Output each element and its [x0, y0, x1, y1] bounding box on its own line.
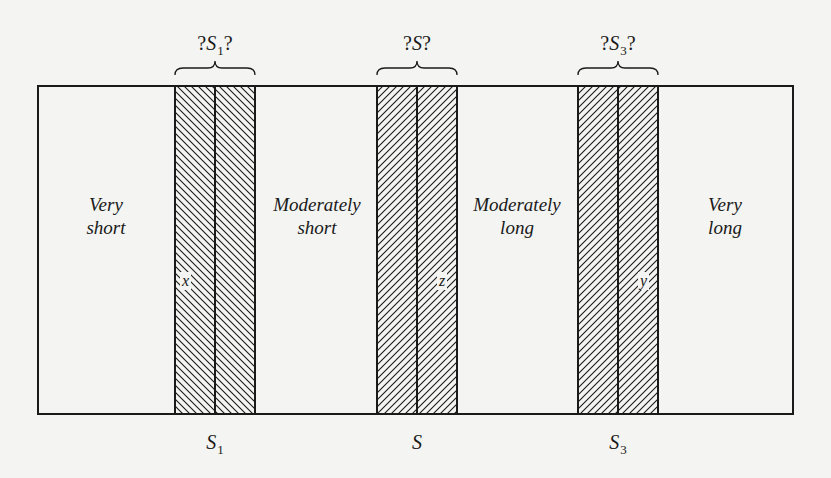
- band-s: [377, 86, 457, 414]
- question-mark: ?: [224, 32, 233, 54]
- region-moderately-long: Moderately long: [458, 193, 576, 239]
- brace-s1: [175, 61, 255, 75]
- region-label-line2: short: [258, 216, 376, 239]
- subscript: 1: [217, 442, 224, 457]
- region-label-line1: Very: [66, 193, 146, 216]
- axis-label-s: S: [387, 431, 447, 453]
- point-label-x: x: [180, 272, 191, 290]
- subscript: 3: [620, 442, 627, 457]
- region-moderately-short: Moderately short: [258, 193, 376, 239]
- diagram-graphics: [0, 0, 831, 478]
- region-very-long: Very long: [685, 193, 765, 239]
- question-mark: ?: [403, 32, 412, 54]
- symbol: S: [412, 32, 422, 54]
- bracket-label-s3: ?S3?: [568, 32, 668, 62]
- region-very-short: Very short: [66, 193, 146, 239]
- band-s1: [175, 86, 255, 414]
- bracket-label-s1: ?S1?: [165, 32, 265, 62]
- symbol: S: [206, 32, 216, 54]
- axis-label-s3: S3: [588, 431, 648, 461]
- brace-s: [377, 61, 457, 75]
- question-mark: ?: [600, 32, 609, 54]
- symbol: S: [609, 32, 619, 54]
- question-mark: ?: [422, 32, 431, 54]
- region-label-line2: short: [66, 216, 146, 239]
- symbol: S: [609, 431, 619, 453]
- region-label-line1: Very: [685, 193, 765, 216]
- diagram-canvas: ?S1? ?S? ?S3? Very short Moderately shor…: [0, 0, 831, 478]
- bracket-label-s: ?S?: [367, 32, 467, 54]
- point-label-y: y: [638, 272, 649, 290]
- region-label-line1: Moderately: [258, 193, 376, 216]
- axis-label-s1: S1: [185, 431, 245, 461]
- brace-s3: [578, 61, 658, 75]
- region-label-line2: long: [458, 216, 576, 239]
- question-mark: ?: [627, 32, 636, 54]
- region-label-line2: long: [685, 216, 765, 239]
- symbol: S: [412, 431, 422, 453]
- point-label-z: z: [437, 272, 447, 290]
- question-mark: ?: [197, 32, 206, 54]
- band-s3: [578, 86, 658, 414]
- symbol: S: [206, 431, 216, 453]
- region-label-line1: Moderately: [458, 193, 576, 216]
